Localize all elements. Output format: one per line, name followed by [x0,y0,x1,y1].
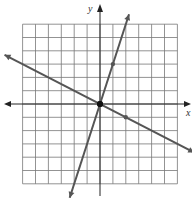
point-marker [124,115,128,119]
y-axis-up-arrow-icon [97,4,103,12]
coordinate-plane: y x [0,0,192,198]
point-marker [111,62,115,66]
x-axis-label: x [185,107,191,118]
y-axis-label: y [87,3,93,14]
point-marker [97,101,103,107]
x-axis-left-arrow-icon [4,101,11,107]
